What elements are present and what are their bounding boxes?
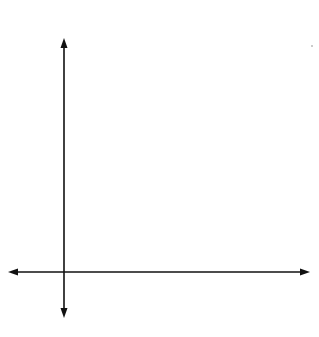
y-axis-arrow-down-icon — [61, 308, 68, 318]
x-axis-arrow-left-icon — [8, 269, 18, 276]
y-axis-arrow-up-icon — [61, 38, 68, 48]
speck — [311, 45, 313, 47]
coordinate-grid — [0, 0, 319, 337]
x-axis-arrow-right-icon — [300, 269, 310, 276]
